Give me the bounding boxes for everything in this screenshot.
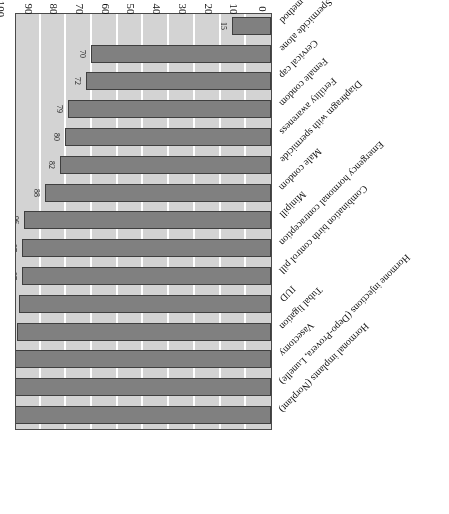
bar-slot: 96 (15, 212, 271, 230)
bar[interactable] (15, 351, 271, 369)
bar-value-label: 96 (15, 217, 21, 225)
value-axis-tick: 50 (126, 4, 138, 15)
bar-slot: 70 (15, 45, 271, 63)
bar-slot: 97 (15, 239, 271, 257)
value-axis-tick: 0 (257, 6, 269, 12)
value-axis-tick: 30 (177, 4, 189, 15)
value-axis-tick: 20 (203, 4, 215, 15)
bar[interactable] (86, 73, 271, 91)
value-axis-tick: 80 (49, 4, 61, 15)
bar-slot: 82 (15, 156, 271, 174)
bar[interactable] (91, 45, 271, 63)
bar-slot: 79 (15, 100, 271, 118)
value-axis-tick: 10 (229, 4, 241, 15)
value-axis-tick: 60 (100, 4, 112, 15)
bar[interactable] (65, 128, 271, 146)
rotated-figure: 99.999.899.6999897979688828079727015 010… (0, 0, 449, 514)
bar-value-label: 82 (48, 161, 57, 169)
bar-value-label: 15 (220, 22, 229, 30)
bar[interactable] (45, 184, 271, 202)
bar-slot: 99.8 (15, 378, 271, 396)
bar-slot: 98 (15, 295, 271, 313)
bar[interactable] (19, 295, 271, 313)
value-axis-tick: 40 (152, 4, 164, 15)
figure-canvas: 99.999.899.6999897979688828079727015 010… (0, 0, 449, 514)
bar-value-label: 97 (15, 272, 18, 280)
bar[interactable] (22, 239, 271, 257)
bar-slot: 99.9 (15, 406, 271, 424)
chart-screenshot: 99.999.899.6999897979688828079727015 010… (0, 0, 449, 514)
value-axis-tick: 100 (0, 1, 7, 18)
value-axis-tick: 70 (75, 4, 87, 15)
category-axis: Hormonal implants (Norplant)Hormone inje… (269, 0, 449, 514)
bar[interactable] (17, 323, 271, 341)
bar-value-label: 72 (73, 78, 82, 86)
bar-slot: 99 (15, 323, 271, 341)
category-axis-label: IUD (277, 284, 297, 304)
bar-slot: 15 (15, 17, 271, 35)
bar[interactable] (60, 156, 271, 174)
bar-value-label: 79 (55, 105, 64, 113)
bar-slot: 88 (15, 184, 271, 202)
bar-slot: 72 (15, 73, 271, 91)
bar-value-label: 80 (53, 133, 62, 141)
bar[interactable] (15, 406, 271, 424)
bar-slot: 99.6 (15, 351, 271, 369)
bar[interactable] (22, 267, 271, 285)
bar[interactable] (24, 212, 271, 230)
bar-value-label: 98 (15, 300, 16, 308)
bar[interactable] (15, 378, 271, 396)
bar[interactable] (232, 17, 271, 35)
bar-slot: 80 (15, 128, 271, 146)
bar[interactable] (68, 100, 271, 118)
value-axis: 0102030405060708090100 (15, 0, 272, 13)
plot-area: 99.999.899.6999897979688828079727015 (15, 13, 272, 430)
bar-series: 99.999.899.6999897979688828079727015 (16, 14, 271, 429)
bar-value-label: 88 (32, 189, 41, 197)
bar-slot: 97 (15, 267, 271, 285)
value-axis-tick: 90 (23, 4, 35, 15)
bar-value-label: 97 (15, 244, 18, 252)
bar-value-label: 70 (79, 50, 88, 58)
